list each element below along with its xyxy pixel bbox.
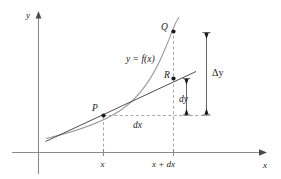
y-axis	[36, 11, 42, 174]
dy-label: dy	[179, 94, 189, 104]
x-axis-label: x	[262, 160, 267, 170]
dx-label: dx	[133, 120, 143, 130]
point-p	[101, 113, 105, 117]
delta-y-label: Δy	[212, 67, 223, 78]
point-q	[171, 29, 175, 33]
differential-diagram: y x x x + dx P Q R y = f(x) dx dy Δy	[0, 0, 281, 179]
tick-label-x: x	[100, 159, 105, 169]
y-axis-label: y	[25, 10, 30, 20]
delta-y-measure	[203, 32, 211, 116]
x-axis	[12, 149, 267, 155]
function-label: y = f(x)	[125, 54, 155, 65]
point-label-q: Q	[161, 22, 168, 32]
function-curve	[46, 17, 179, 139]
point-label-r: R	[163, 70, 170, 80]
tick-label-x-plus-dx: x + dx	[151, 159, 175, 169]
point-r	[171, 76, 175, 80]
point-label-p: P	[91, 103, 98, 113]
